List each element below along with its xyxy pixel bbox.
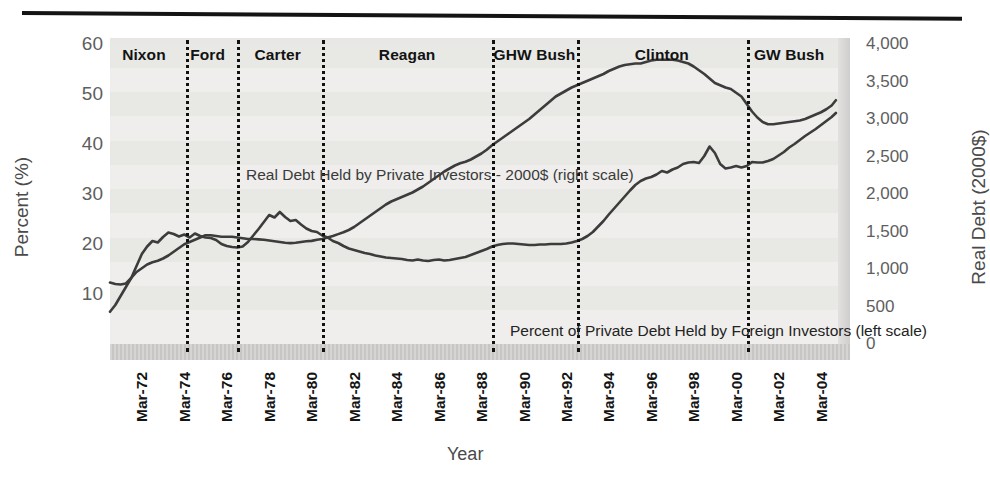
x-axis-tick: Mar-72 [133, 372, 151, 422]
x-axis-tick: Mar-76 [218, 372, 236, 422]
right-axis-tick: 1,000 [866, 259, 909, 279]
series-path-foreign-percent [110, 113, 836, 285]
right-axis-tick: 4,000 [866, 34, 909, 54]
era-label-gw-bush: GW Bush [754, 46, 824, 64]
era-label-ghw-bush: GHW Bush [494, 46, 576, 64]
series-label-foreign-percent: Percent of Private Debt Held by Foreign … [510, 322, 927, 340]
series-path-real-debt [110, 60, 836, 312]
x-axis-tick: Mar-94 [600, 372, 618, 422]
x-axis-tick: Mar-96 [643, 372, 661, 422]
era-label-nixon: Nixon [122, 46, 166, 64]
right-axis-tick: 500 [866, 297, 894, 317]
era-label-ford: Ford [190, 46, 225, 64]
plot-floor-face [110, 344, 850, 360]
left-axis-tick: 60 [82, 33, 103, 55]
right-axis-tick: 2,000 [866, 184, 909, 204]
right-axis-tick: 1,500 [866, 222, 909, 242]
right-axis-tick: 2,500 [866, 147, 909, 167]
era-divider [186, 40, 189, 352]
right-axis-tick: 3,000 [866, 109, 909, 129]
x-axis-tick: Mar-84 [388, 372, 406, 422]
plot-area: Real Debt Held by Private Investors - 20… [110, 44, 838, 344]
x-axis-tick: Mar-80 [303, 372, 321, 422]
left-axis-tick: 10 [82, 283, 103, 305]
right-axis-tick-labels: 4,0003,5003,0002,5002,0001,5001,0005000 [866, 0, 956, 493]
x-axis-tick: Mar-04 [813, 372, 831, 422]
series-label-real-debt: Real Debt Held by Private Investors - 20… [246, 166, 634, 184]
x-axis-tick: Mar-00 [728, 372, 746, 422]
era-divider [322, 40, 325, 352]
era-divider [747, 40, 750, 352]
x-axis-title: Year [447, 444, 483, 465]
era-label-reagan: Reagan [379, 46, 436, 64]
right-axis-title: Real Debt (2000$) [968, 112, 990, 302]
era-divider [577, 40, 580, 352]
x-axis-tick: Mar-88 [473, 372, 491, 422]
left-axis-title: Percent (%) [11, 127, 33, 287]
x-axis-tick: Mar-86 [431, 372, 449, 422]
left-axis-tick: 20 [82, 233, 103, 255]
x-axis-tick: Mar-90 [516, 372, 534, 422]
left-axis-tick: 30 [82, 183, 103, 205]
x-axis-tick: Mar-74 [176, 372, 194, 422]
era-divider [492, 40, 495, 352]
right-axis-tick: 3,500 [866, 72, 909, 92]
x-axis-tick: Mar-98 [685, 372, 703, 422]
left-axis-tick: 40 [82, 133, 103, 155]
page-top-rule [22, 11, 962, 21]
x-axis-tick: Mar-82 [346, 372, 364, 422]
x-axis-tick: Mar-78 [261, 372, 279, 422]
x-axis-tick: Mar-92 [558, 372, 576, 422]
era-divider [237, 40, 240, 352]
series-lines [110, 44, 838, 344]
x-axis-tick: Mar-02 [770, 372, 788, 422]
era-label-clinton: Clinton [635, 46, 689, 64]
left-axis-tick: 50 [82, 83, 103, 105]
era-label-carter: Carter [255, 46, 301, 64]
plot-right-face [838, 38, 850, 344]
